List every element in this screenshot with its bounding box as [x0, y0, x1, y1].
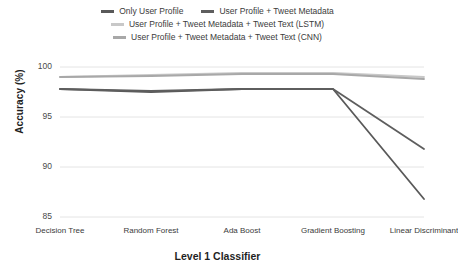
- y-tick-label: 85: [26, 211, 52, 221]
- series-line-0: [60, 89, 424, 199]
- x-tick-label: Decision Tree: [36, 226, 85, 235]
- y-tick-label: 90: [26, 161, 52, 171]
- x-tick-label: Linear Discriminant: [390, 226, 458, 235]
- x-tick-label: Ada Boost: [224, 226, 261, 235]
- x-tick-label: Random Forest: [123, 226, 178, 235]
- x-axis-title: Level 1 Classifier: [0, 250, 435, 262]
- series-line-1: [60, 89, 424, 149]
- y-tick-label: 100: [26, 61, 52, 71]
- y-tick-label: 95: [26, 111, 52, 121]
- x-tick-label: Gradient Boosting: [301, 226, 365, 235]
